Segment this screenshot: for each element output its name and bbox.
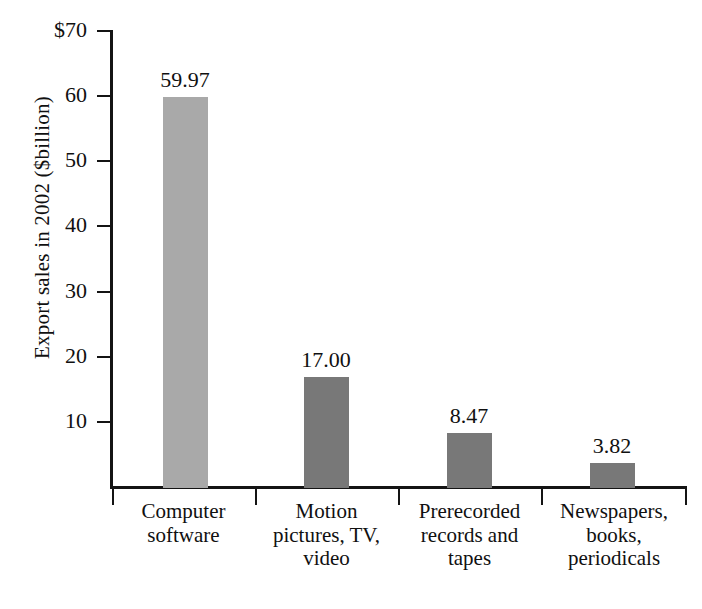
bar	[590, 463, 635, 488]
y-tick-label: 50	[27, 149, 87, 171]
x-axis-category-label: Prerecordedrecords andtapes	[398, 500, 541, 571]
category-label-line: books,	[541, 524, 687, 548]
y-axis-line	[110, 30, 113, 488]
plot-area: 102030405060$70 59.9717.008.473.82 Compu…	[0, 0, 702, 609]
y-tick-label: 30	[27, 280, 87, 302]
x-axis-category-label: Newspapers,books,periodicals	[541, 500, 687, 571]
category-label-line: software	[112, 524, 255, 548]
y-tick-mark	[97, 160, 113, 162]
bar-value-label: 59.97	[140, 69, 230, 91]
y-tick-label: 20	[27, 345, 87, 367]
y-tick-label: 10	[27, 410, 87, 432]
y-tick-mark	[97, 225, 113, 227]
category-label-line: records and	[398, 524, 541, 548]
y-tick-label: $70	[27, 19, 87, 41]
bar-value-label: 3.82	[567, 435, 657, 457]
bar	[163, 97, 208, 488]
category-label-line: Computer	[112, 500, 255, 524]
y-tick-mark	[97, 291, 113, 293]
category-label-line: tapes	[398, 547, 541, 571]
bar-value-label: 17.00	[281, 349, 371, 371]
bar	[447, 433, 492, 488]
bar-value-label: 8.47	[424, 405, 514, 427]
bar-chart: Export sales in 2002 ($billion) 10203040…	[0, 0, 702, 609]
category-label-line: Newspapers,	[541, 500, 687, 524]
bar	[304, 377, 349, 488]
y-tick-label: 40	[27, 214, 87, 236]
category-label-line: pictures, TV,	[255, 524, 398, 548]
category-label-line: periodicals	[541, 547, 687, 571]
y-tick-mark	[97, 356, 113, 358]
y-tick-mark	[97, 30, 113, 32]
category-label-line: Prerecorded	[398, 500, 541, 524]
category-label-line: video	[255, 547, 398, 571]
category-label-line: Motion	[255, 500, 398, 524]
y-tick-mark	[97, 421, 113, 423]
x-axis-category-label: Motionpictures, TV,video	[255, 500, 398, 571]
x-axis-category-label: Computersoftware	[112, 500, 255, 547]
y-tick-label: 60	[27, 84, 87, 106]
y-tick-mark	[97, 95, 113, 97]
